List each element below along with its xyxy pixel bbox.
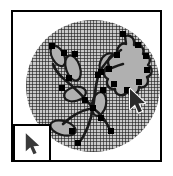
anchor-stem-base — [75, 140, 81, 146]
anchor-leaf-center-r2 — [98, 115, 104, 121]
anchor-flower-up-r — [135, 42, 141, 48]
anchor-flower-top — [120, 31, 126, 37]
anchor-leaf-center-l2 — [82, 97, 88, 103]
mouse-cursor-icon[interactable] — [128, 88, 148, 114]
anchor-leaf-upper-l3 — [66, 75, 72, 81]
anchor-flower-l1 — [106, 66, 112, 72]
anchor-leaf-lower-l2 — [69, 128, 75, 134]
cursor-preview-icon — [24, 132, 42, 156]
anchor-flower-r2 — [144, 67, 150, 73]
anchor-flower-bl — [111, 81, 117, 87]
anchor-flower-br — [136, 79, 142, 85]
screenshot-root — [0, 0, 173, 176]
anchor-leaf-center-l1 — [59, 85, 65, 91]
anchor-branch-lower-r — [108, 128, 114, 134]
anchor-flower-l2 — [114, 52, 120, 58]
magnified-cursor-preview[interactable] — [13, 124, 51, 162]
leaf-upper-left — [62, 53, 83, 82]
canvas-frame[interactable] — [11, 10, 162, 162]
anchor-leaf-top-left — [49, 43, 55, 49]
anchor-stem-mid — [90, 105, 96, 111]
anchor-flower-r1 — [143, 53, 149, 59]
anchor-leaf-upper-r1 — [98, 69, 104, 75]
anchor-leaf-upper-l1 — [61, 50, 67, 56]
anchor-leaf-upper-l2 — [72, 51, 78, 57]
anchor-leaf-center-r1 — [100, 87, 106, 93]
